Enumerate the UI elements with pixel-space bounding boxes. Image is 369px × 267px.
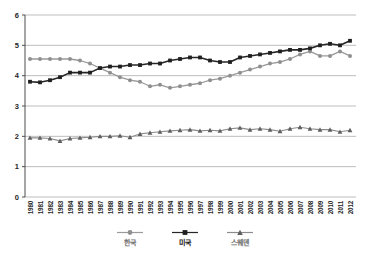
series-1-point-1982 [48,78,52,82]
x-tick-label-2003: 2003 [257,200,264,214]
series-0-point-2003 [258,65,262,69]
x-tick-label-1992: 1992 [147,200,154,214]
x-tick-label-1993: 1993 [157,200,164,214]
series-1-point-1983 [58,75,62,79]
x-tick-label-2002: 2002 [247,200,254,214]
x-tick-label-1999: 1999 [217,200,224,214]
legend-label-korea: 한국 [124,237,136,247]
series-1-point-2011 [338,43,342,47]
series-1-point-1994 [168,59,172,63]
chart-screenshot: 0123456198019811982198319841985198619871… [0,0,369,267]
series-0-point-1985 [78,59,82,63]
series-1-point-2010 [328,42,332,46]
x-tick-label-1981: 1981 [37,200,44,214]
x-tick-label-2005: 2005 [277,200,284,214]
x-tick-label-1988: 1988 [107,200,114,214]
series-0-point-1998 [208,78,212,82]
series-0-point-2012 [348,54,352,58]
series-1-point-1984 [68,71,72,75]
x-tick-label-2001: 2001 [237,200,244,214]
series-0-point-1981 [38,57,42,61]
x-tick-label-2009: 2009 [317,200,324,214]
series-0-point-2011 [338,49,342,53]
series-0-point-1983 [58,57,62,61]
series-0-point-1994 [168,86,172,90]
x-tick-label-1998: 1998 [207,200,214,214]
korea-series-marker-icon [115,228,145,237]
x-tick-label-2012: 2012 [347,200,354,214]
series-0-point-2006 [288,57,292,61]
legend-item-korea: 한국 [109,228,151,247]
y-tick-label-0: 0 [15,193,19,202]
series-0-point-1993 [158,83,162,87]
series-1-point-2008 [308,46,312,50]
x-tick-label-2010: 2010 [327,200,334,214]
series-1-point-2006 [288,48,292,52]
line-chart-figure: 0123456198019811982198319841985198619871… [0,0,369,267]
x-tick-label-2011: 2011 [337,200,344,214]
legend-item-sweden: 스웨덴 [219,228,261,247]
sweden-series-marker-icon [225,228,255,237]
y-tick-label-6: 6 [15,11,19,20]
series-0-point-1982 [48,57,52,61]
series-1-point-2005 [278,50,282,54]
series-0-point-1989 [118,75,122,79]
series-1-point-2009 [318,43,322,47]
plot-area: 0123456198019811982198319841985198619871… [0,0,369,226]
usa-series-marker-icon [170,228,200,237]
series-1-point-1987 [98,66,102,70]
legend-item-usa: 미국 [164,228,206,247]
series-0-point-1984 [68,57,72,61]
x-tick-label-1980: 1980 [27,200,34,214]
series-1-point-1990 [128,63,132,67]
series-1-point-1986 [88,71,92,75]
series-0-point-2000 [228,74,232,78]
series-0-point-2001 [238,71,242,75]
x-tick-label-1997: 1997 [197,200,204,214]
series-1-point-2002 [248,54,252,58]
series-0-point-1995 [178,84,182,88]
series-1-point-1980 [28,80,32,84]
x-tick-label-1986: 1986 [87,200,94,214]
y-tick-label-1: 1 [15,162,19,171]
y-tick-label-5: 5 [15,41,19,50]
x-tick-label-2004: 2004 [267,200,274,214]
x-tick-label-1984: 1984 [67,200,74,214]
x-tick-label-1982: 1982 [47,200,54,214]
series-1-point-1993 [158,62,162,66]
series-1-point-2003 [258,53,262,57]
series-0-point-2002 [248,68,252,72]
series-0-point-1991 [138,80,142,84]
series-1-point-1981 [38,80,42,84]
series-0-point-2010 [328,54,332,58]
series-0-point-1996 [188,83,192,87]
series-0-point-1990 [128,78,132,82]
y-tick-label-2: 2 [15,132,19,141]
x-tick-label-2000: 2000 [227,200,234,214]
series-0-point-1986 [88,62,92,66]
series-1-point-2000 [228,60,232,64]
x-tick-label-1995: 1995 [177,200,184,214]
series-0-point-1992 [148,84,152,88]
series-0-point-2005 [278,60,282,64]
series-0-point-1980 [28,57,32,61]
series-1-point-2007 [298,48,302,52]
series-1-point-1997 [198,56,202,60]
series-0-point-2007 [298,52,302,56]
y-tick-label-4: 4 [15,71,20,80]
series-0-point-1997 [198,81,202,85]
x-tick-label-1983: 1983 [57,200,64,214]
x-tick-label-1991: 1991 [137,200,144,214]
series-1-point-1999 [218,60,222,64]
series-1-point-2004 [268,51,272,55]
series-0-point-1988 [108,71,112,75]
series-1-point-1996 [188,56,192,60]
x-tick-label-2008: 2008 [307,200,314,214]
series-0-point-2004 [268,62,272,66]
x-tick-label-1990: 1990 [127,200,134,214]
x-tick-label-2006: 2006 [287,200,294,214]
series-1-point-1989 [118,65,122,69]
legend-label-sweden: 스웨덴 [231,237,249,247]
series-1-point-1991 [138,63,142,67]
x-tick-label-2007: 2007 [297,200,304,214]
